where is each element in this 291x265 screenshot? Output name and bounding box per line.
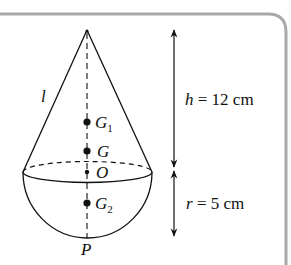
point-g2	[83, 199, 90, 206]
point-o	[85, 170, 89, 174]
diagram-figure: l G1 G O G2 P h = 12 cm r = 5 cm	[0, 0, 291, 265]
p-label: P	[80, 240, 91, 259]
point-g1	[83, 118, 90, 125]
radius-label: r = 5 cm	[186, 194, 244, 213]
g2-label: G2	[95, 194, 113, 215]
g1-label: G1	[95, 113, 113, 134]
height-label: h = 12 cm	[185, 90, 254, 109]
o-label: O	[96, 163, 108, 182]
g-label: G	[97, 142, 109, 161]
slant-label: l	[41, 87, 46, 106]
point-g	[83, 147, 90, 154]
frame-border	[0, 14, 286, 265]
